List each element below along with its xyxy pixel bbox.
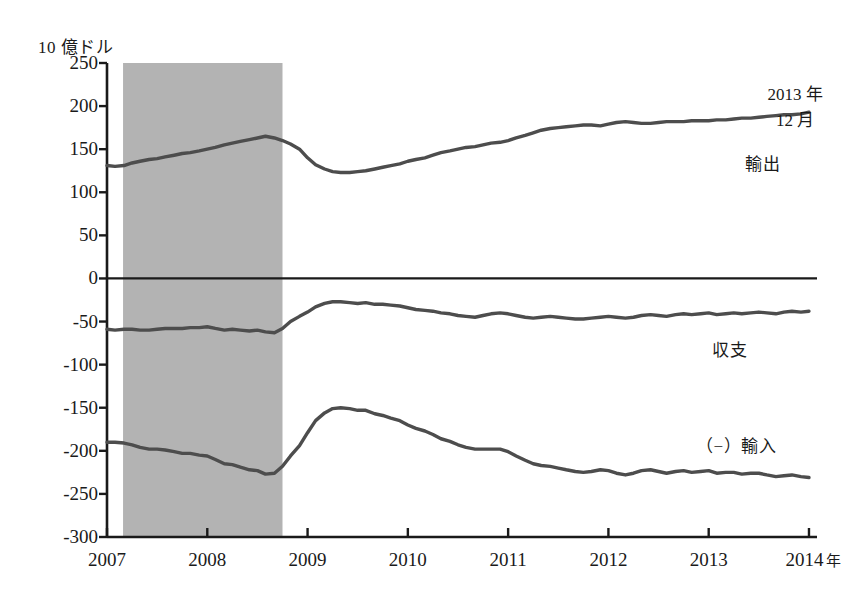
latest-date-callout: 2013 年12 月 bbox=[767, 82, 822, 133]
series-label-1: 収支 bbox=[712, 336, 747, 361]
shaded-region-layer bbox=[123, 63, 282, 537]
recession-band bbox=[123, 63, 282, 537]
plot-area bbox=[0, 0, 853, 601]
latest-date-callout-line2: 12 月 bbox=[767, 108, 822, 134]
series-label-0: 輸出 bbox=[745, 150, 780, 175]
series-label-2: （−）輸入 bbox=[696, 432, 776, 457]
latest-date-callout-line1: 2013 年 bbox=[767, 82, 822, 108]
chart-container: 10 億ドル 250200150100500-50-100-150-200-25… bbox=[0, 0, 853, 601]
